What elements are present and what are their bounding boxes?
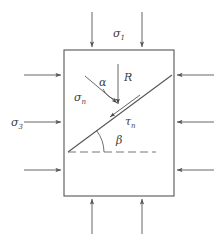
alpha-label: α	[99, 76, 107, 89]
sigma1-subscript: 1	[121, 34, 125, 42]
sigma3-arrows-right	[177, 75, 214, 170]
beta-label: β	[115, 134, 122, 147]
tau-n-subscript: n	[131, 122, 136, 130]
sigma1-arrows-bottom	[92, 199, 142, 234]
resultant-label: R	[123, 71, 132, 84]
sigma1-label: σ1	[113, 27, 125, 42]
rectangular-specimen	[64, 50, 174, 196]
sigma3-label: σ3	[11, 116, 24, 131]
sigma3-subscript: 3	[19, 123, 24, 131]
sigma3-arrows-left	[24, 75, 61, 170]
stress-diagram-canvas: σ1 σ3 σn τn R α β	[0, 0, 223, 238]
stress-diagram-figure: σ1 σ3 σn τn R α β	[0, 0, 223, 238]
sigma-n-subscript: n	[82, 98, 87, 106]
